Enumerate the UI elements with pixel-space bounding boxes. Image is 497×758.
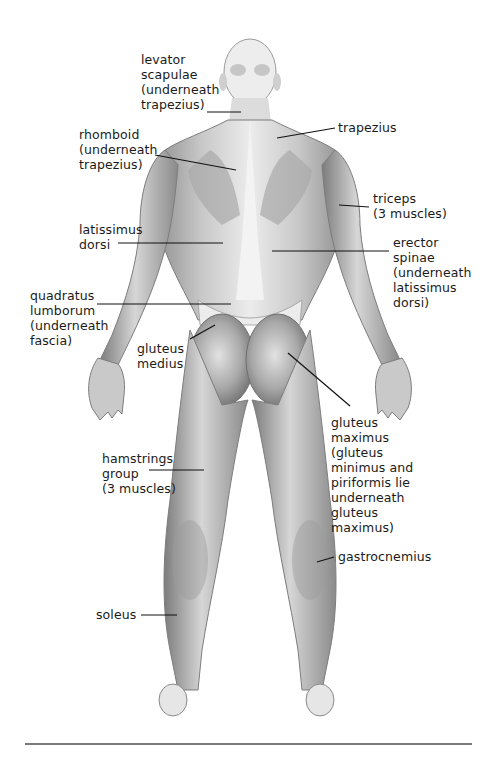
label-latissimus-dorsi: latissimus dorsi [79, 222, 143, 252]
torso [153, 120, 346, 325]
label-quadratus-lumborum: quadratus lumborum (underneath fascia) [30, 288, 108, 348]
head [219, 39, 281, 130]
label-erector-spinae: erector spinae (underneath latissimus do… [393, 235, 471, 310]
label-triceps: triceps (3 muscles) [373, 191, 447, 221]
label-gastrocnemius: gastrocnemius [338, 549, 431, 564]
bottom-divider [25, 743, 472, 745]
label-hamstrings-group: hamstrings group (3 muscles) [102, 451, 176, 496]
label-trapezius: trapezius [338, 120, 397, 135]
label-rhomboid: rhomboid (underneath trapezius) [79, 127, 157, 172]
label-gluteus-maximus: gluteus maximus (gluteus minimus and pir… [331, 415, 413, 535]
label-gluteus-medius: gluteus medius [137, 341, 184, 371]
anatomy-figure [0, 0, 497, 758]
label-levator-scapulae: levator scapulae (underneath trapezius) [141, 52, 219, 112]
label-soleus: soleus [96, 607, 136, 622]
